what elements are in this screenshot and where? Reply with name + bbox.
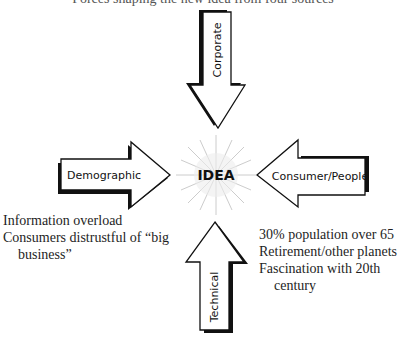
idea-center-label: IDEA — [197, 167, 234, 183]
right-note-item: 30% population over 65 — [259, 226, 397, 243]
corporate-label: Corporate — [211, 22, 224, 77]
demographic-arrow: Demographic — [58, 142, 170, 210]
consumer-people-arrow: Consumer/People — [257, 140, 369, 207]
right-note-item: Fascination with 20th — [259, 260, 397, 277]
demographic-label: Demographic — [67, 169, 141, 182]
left-notes: Information overload Consumers distrustf… — [3, 212, 169, 263]
technical-arrow: Technical — [186, 222, 248, 333]
right-note-item: century — [259, 277, 397, 294]
corporate-arrow: Corporate — [186, 10, 245, 128]
technical-label: Technical — [208, 272, 221, 324]
left-note-item: Consumers distrustful of “big — [3, 229, 169, 246]
left-note-item: business” — [3, 246, 169, 263]
consumer-people-label: Consumer/People — [272, 170, 369, 183]
right-note-item: Retirement/other planets — [259, 243, 397, 260]
right-notes: 30% population over 65 Retirement/other … — [259, 226, 397, 294]
left-note-item: Information overload — [3, 212, 169, 229]
